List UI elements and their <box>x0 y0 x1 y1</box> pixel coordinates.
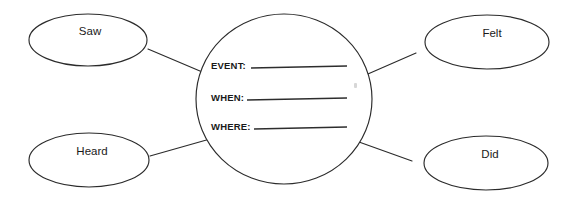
scan-speck-artifact <box>354 83 357 88</box>
connector-saw-to-center <box>148 49 207 74</box>
organizer-canvas: Saw Felt Heard Did EVENT: WHEN: WHERE: <box>0 0 562 202</box>
node-oval-did[interactable] <box>424 136 548 190</box>
connector-did-to-center <box>359 142 412 161</box>
node-label-heard: Heard <box>76 145 107 157</box>
node-oval-saw[interactable] <box>29 14 147 66</box>
connector-felt-to-center <box>361 53 416 77</box>
node-label-saw: Saw <box>79 25 102 37</box>
field-label-where: WHERE: <box>211 121 251 132</box>
field-label-when: WHEN: <box>211 92 244 103</box>
graphic-organizer: Saw Felt Heard Did EVENT: WHEN: WHERE: <box>0 0 562 202</box>
node-oval-felt[interactable] <box>425 15 549 69</box>
node-label-felt: Felt <box>482 27 502 39</box>
node-label-did: Did <box>481 148 498 160</box>
field-label-event: EVENT: <box>211 60 246 71</box>
node-oval-heard[interactable] <box>29 133 149 187</box>
connector-heard-to-center <box>150 139 210 156</box>
